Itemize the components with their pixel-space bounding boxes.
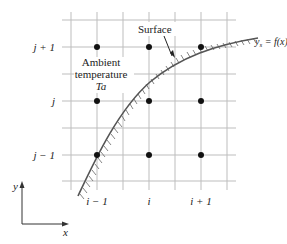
row-label-j+1: j + 1	[32, 41, 55, 53]
diagram-canvas: Surface ys = f(x) Ambient temperature Ta…	[0, 0, 287, 244]
axes-indicator: y x	[12, 180, 69, 238]
ambient-symbol: Ta	[96, 80, 107, 92]
ambient-label-line1: Ambient	[82, 56, 121, 68]
row-label-j-1: j − 1	[32, 149, 55, 161]
node-i-j	[146, 98, 152, 104]
y-axis-label: y	[12, 180, 18, 192]
x-axis-label: x	[62, 226, 68, 238]
node-i-1-j	[94, 98, 100, 104]
node-i-j+1	[146, 44, 152, 50]
curve-equation: ys = f(x)	[254, 36, 287, 49]
row-label-j: j	[50, 95, 55, 107]
node-i-j-1	[146, 152, 152, 158]
node-i-1-j-1	[94, 152, 100, 158]
col-label-i: i	[147, 195, 150, 207]
surface-label: Surface	[138, 23, 172, 35]
ambient-label-line2: temperature	[75, 68, 128, 80]
node-i+1-j+1	[198, 44, 204, 50]
node-i-1-j+1	[94, 44, 100, 50]
node-i+1-j-1	[198, 152, 204, 158]
y-arrowhead-icon	[20, 181, 25, 188]
col-label-i+1: i + 1	[190, 195, 211, 207]
col-label-i-1: i − 1	[86, 195, 107, 207]
node-i+1-j	[198, 98, 204, 104]
